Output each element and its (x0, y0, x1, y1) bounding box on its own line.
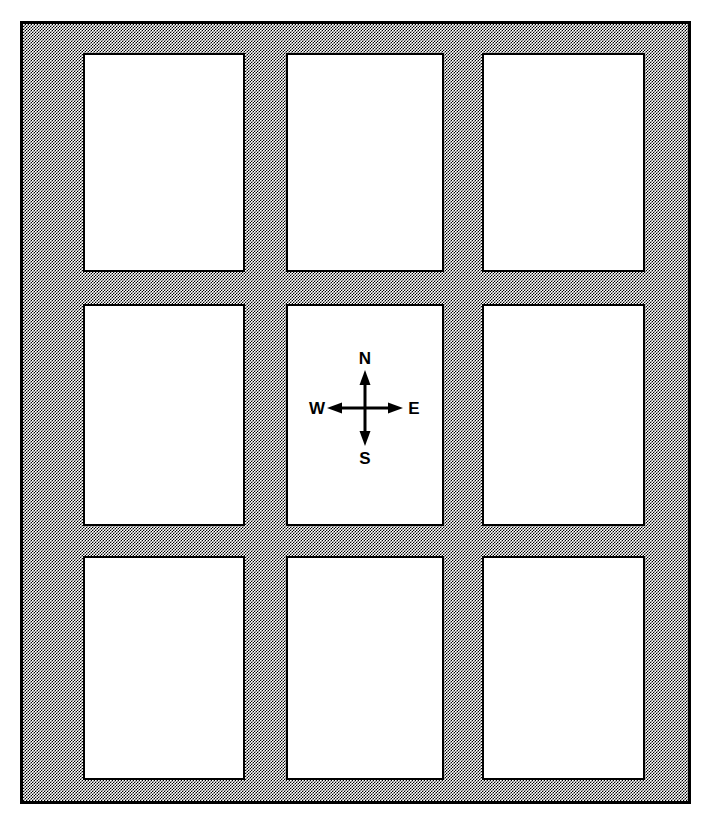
map-pane-r2c3[interactable] (482, 304, 645, 526)
compass-label-west: W (309, 399, 326, 418)
compass-label-south: S (359, 449, 370, 466)
compass-label-north: N (359, 350, 371, 368)
map-pane-r1c2[interactable] (286, 53, 444, 272)
map-pane-r3c3[interactable] (482, 556, 645, 780)
map-frame: N S W E (20, 21, 691, 804)
compass-label-east: E (408, 399, 419, 418)
map-pane-r1c3[interactable] (482, 53, 645, 272)
map-pane-r1c1[interactable] (83, 53, 245, 272)
pane-grid: N S W E (83, 53, 644, 779)
compass-rose-icon: N S W E (297, 350, 433, 466)
map-pane-r3c2[interactable] (286, 556, 444, 780)
map-pane-r2c2[interactable]: N S W E (286, 304, 444, 526)
map-pane-r2c1[interactable] (83, 304, 245, 526)
map-pane-r3c1[interactable] (83, 556, 245, 780)
